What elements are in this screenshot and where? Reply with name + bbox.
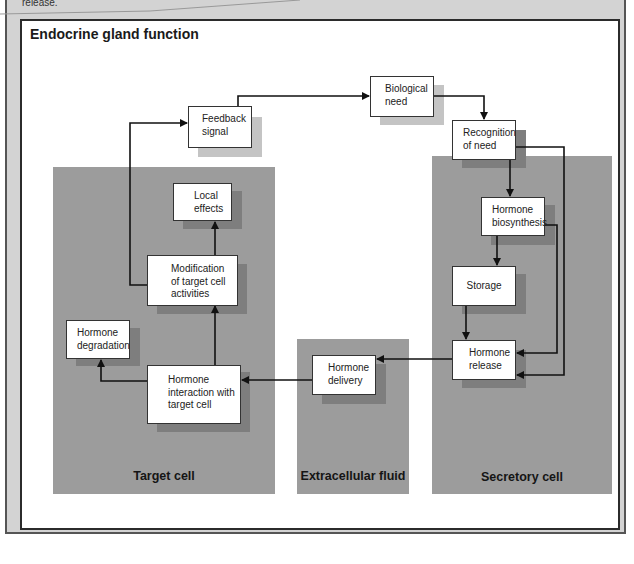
edge-biological-need-to-recognition	[434, 96, 484, 119]
node-feedback-signal-line1: Feedback	[202, 113, 251, 126]
node-biological-need-line2: need	[385, 96, 433, 109]
node-delivery-line2: delivery	[328, 375, 375, 388]
node-biological-need-line1: Biological	[385, 83, 433, 96]
edge-interaction-to-degradation	[101, 360, 147, 381]
node-recognition-line1: Recognition	[463, 127, 515, 140]
node-release-line1: Hormone	[469, 347, 515, 360]
diagram-edges	[0, 0, 634, 564]
node-feedback-signal-line2: signal	[202, 126, 251, 139]
node-local-effects: Local effects	[173, 183, 232, 221]
node-hormone-degradation: Hormone degradation	[66, 320, 130, 359]
node-biosynthesis-line1: Hormone	[492, 204, 544, 217]
node-degradation-line2: degradation	[77, 340, 129, 353]
node-recognition-of-need: Recognition of need	[452, 120, 516, 160]
node-release-line2: release	[469, 360, 515, 373]
node-hormone-delivery: Hormone delivery	[312, 355, 376, 395]
node-interaction-line1: Hormone	[168, 374, 240, 387]
node-degradation-line1: Hormone	[77, 327, 129, 340]
node-biological-need: Biological need	[370, 76, 434, 117]
node-interaction-line3: target cell	[168, 399, 240, 412]
node-modification-line2: of target cell	[171, 276, 237, 289]
node-local-effects-line2: effects	[194, 203, 231, 216]
node-local-effects-line1: Local	[194, 190, 231, 203]
node-interaction-line2: interaction with	[168, 387, 240, 400]
node-modification: Modification of target cell activities	[147, 255, 238, 306]
node-biosynthesis-line2: biosynthesis	[492, 217, 544, 230]
node-hormone-biosynthesis: Hormone biosynthesis	[481, 197, 545, 236]
node-storage: Storage	[452, 266, 516, 306]
node-storage-line1: Storage	[453, 280, 515, 293]
edge-feedback-to-biological-need	[238, 96, 369, 106]
node-hormone-release: Hormone release	[452, 340, 516, 380]
edge-biosynthesis-to-release	[517, 225, 557, 353]
node-feedback-signal: Feedback signal	[188, 106, 252, 148]
node-modification-line3: activities	[171, 288, 237, 301]
node-delivery-line1: Hormone	[328, 362, 375, 375]
node-hormone-interaction: Hormone interaction with target cell	[147, 365, 241, 424]
node-modification-line1: Modification	[171, 263, 237, 276]
node-recognition-line2: of need	[463, 140, 515, 153]
